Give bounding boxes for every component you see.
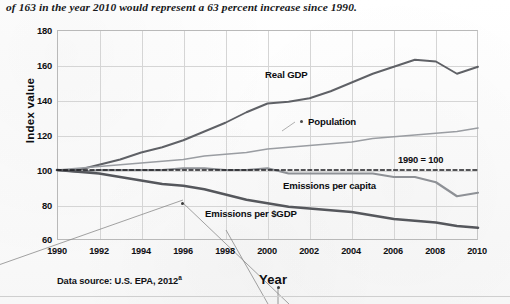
y-axis-title: Index value xyxy=(23,56,36,166)
series-label-emissions-per-gdp: Emissions per $GDP xyxy=(205,208,297,219)
x-tick-label: 2002 xyxy=(287,246,331,256)
y-axis-ticks: 180 160 140 120 100 80 60 1990 1992 1994… xyxy=(0,0,510,304)
series-label-population: Population xyxy=(308,116,356,127)
x-axis-title: Year xyxy=(259,272,287,287)
x-tick-label: 1996 xyxy=(161,246,205,256)
annotation-dot-population xyxy=(300,120,303,123)
x-tick-label: 1992 xyxy=(77,246,121,256)
y-tick-label: 180 xyxy=(12,25,52,36)
x-tick-label: 1998 xyxy=(203,246,247,256)
page-divider-rule xyxy=(0,296,510,297)
y-tick-label: 60 xyxy=(12,234,52,245)
data-source-superscript: a xyxy=(178,274,182,281)
series-label-emissions-per-capita: Emissions per capita xyxy=(283,180,376,191)
x-tick-label: 2000 xyxy=(245,246,289,256)
y-tick-label: 100 xyxy=(12,165,52,176)
scanned-figure-page: of 163 in the year 2010 would represent … xyxy=(0,0,510,304)
annotation-dot-year xyxy=(277,286,280,289)
x-tick-label: 1994 xyxy=(119,246,163,256)
data-source-text: Data source: U.S. EPA, 2012 xyxy=(57,276,178,286)
x-tick-label: 2004 xyxy=(329,246,373,256)
baseline-reference-label: 1990 = 100 xyxy=(398,155,443,165)
x-tick-label: 2008 xyxy=(413,246,457,256)
x-tick-label: 2010 xyxy=(455,246,499,256)
data-source-note: Data source: U.S. EPA, 2012a xyxy=(57,274,182,286)
x-tick-label: 1990 xyxy=(35,246,79,256)
x-tick-label: 2006 xyxy=(371,246,415,256)
series-label-real-gdp: Real GDP xyxy=(265,69,308,80)
y-tick-label: 80 xyxy=(12,200,52,211)
